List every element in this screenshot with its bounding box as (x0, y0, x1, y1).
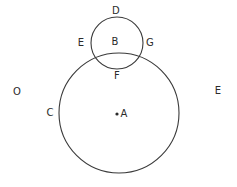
label-e-left: E (78, 38, 85, 48)
label-a: A (120, 109, 127, 119)
geometry-figure-canvas: D B E G F A C O E (0, 0, 237, 187)
geometry-svg (0, 0, 237, 187)
center-point-marker-a (115, 112, 118, 115)
label-d: D (112, 6, 120, 16)
label-b: B (111, 37, 118, 47)
label-c: C (46, 108, 53, 118)
label-o: O (13, 87, 21, 97)
label-e-right: E (215, 86, 222, 96)
label-f: F (114, 71, 120, 81)
label-g: G (146, 38, 154, 48)
